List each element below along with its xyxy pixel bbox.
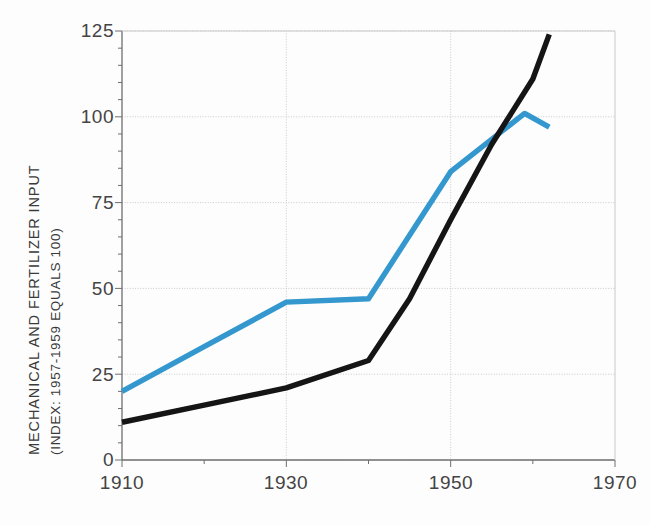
plot-frame	[122, 31, 615, 460]
data-series-layer	[122, 34, 549, 422]
axis-ticks	[115, 31, 615, 467]
series-line-mechanical-input	[122, 34, 549, 422]
gridlines	[122, 31, 615, 460]
chart-figure: MECHANICAL AND FERTILIZER INPUT (INDEX: …	[0, 0, 650, 525]
plot-area	[0, 0, 650, 525]
